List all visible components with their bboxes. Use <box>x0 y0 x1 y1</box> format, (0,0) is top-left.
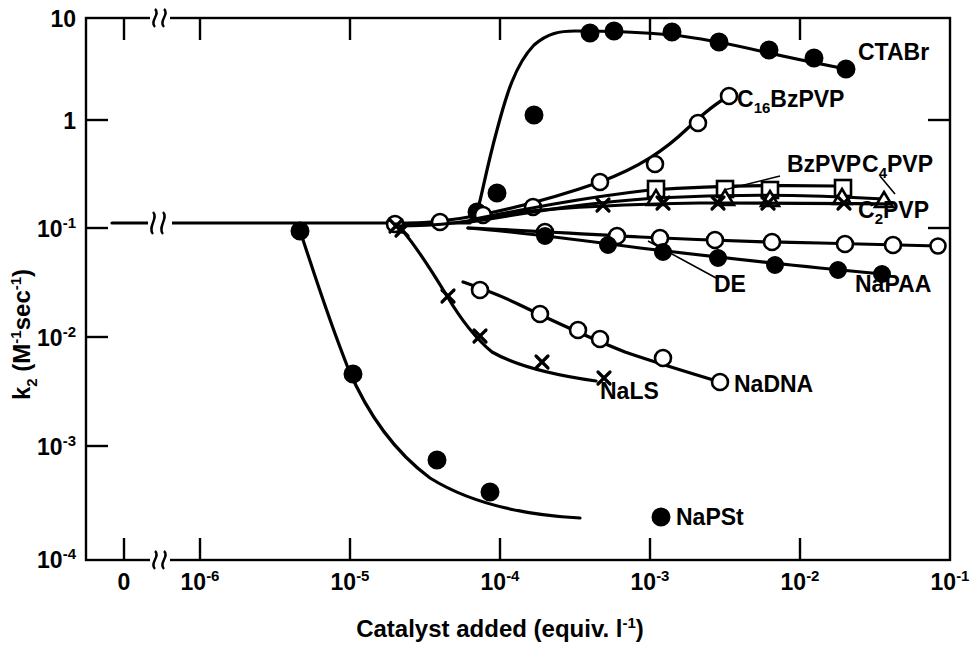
label-napst: NaPSt <box>676 504 744 530</box>
data-point <box>472 282 488 298</box>
data-point <box>429 452 446 469</box>
data-point <box>806 50 823 67</box>
data-point <box>570 322 586 338</box>
data-point <box>655 350 671 366</box>
data-point <box>838 61 855 78</box>
label-nals: NaLS <box>600 378 659 404</box>
data-point <box>664 24 681 41</box>
data-point <box>721 88 737 104</box>
ytick-label-1e-1: 10-1 <box>37 214 76 242</box>
xtick-label-0: 0 <box>118 569 131 595</box>
xtick-label-1e-6: 10-6 <box>181 567 220 595</box>
data-point <box>710 250 726 266</box>
data-point <box>931 239 946 254</box>
data-point <box>592 331 608 347</box>
label-de: DE <box>714 271 746 297</box>
series-c2pvp <box>390 197 890 232</box>
label-c2pvp: C2PVP <box>858 197 929 227</box>
data-point <box>489 185 506 202</box>
data-point <box>707 232 723 248</box>
data-point <box>653 509 670 526</box>
data-point <box>592 174 608 190</box>
data-point <box>764 234 780 250</box>
leader-de <box>648 241 718 279</box>
data-point <box>767 257 783 273</box>
ytick-label-1e-4: 10-4 <box>37 545 77 573</box>
series-nals <box>396 224 610 384</box>
ytick-label-1e-2: 10-2 <box>37 323 76 351</box>
x-axis-ticks <box>124 538 800 560</box>
data-point <box>345 366 362 383</box>
data-point <box>885 237 901 253</box>
y-axis-ticks <box>86 120 108 446</box>
xtick-label-1e-1: 10-1 <box>931 567 970 595</box>
label-bzpvp: BzPVP <box>787 151 861 177</box>
xtick-label-1e-3: 10-3 <box>631 567 670 595</box>
ytick-label-10: 10 <box>50 6 76 32</box>
xtick-label-1e-4: 10-4 <box>481 567 521 595</box>
data-point <box>647 156 663 172</box>
data-point <box>537 228 553 244</box>
ytick-label-1e-3: 10-3 <box>37 432 76 460</box>
x-axis-title: Catalyst added (equiv. l-1) <box>356 614 644 642</box>
data-point <box>600 237 616 253</box>
y-axis-title: k2 (M-1sec-1) <box>7 269 40 400</box>
series-nadna <box>463 282 728 390</box>
x-axis-ticks-top <box>124 18 800 40</box>
data-point <box>712 374 728 390</box>
label-c16bzpvp: C16BzPVP <box>737 86 844 116</box>
x-axis-break-bottom <box>150 551 170 569</box>
data-point <box>536 356 548 368</box>
series-c16bzpvp <box>387 88 737 232</box>
data-point <box>606 23 623 40</box>
data-point <box>830 262 846 278</box>
svg-text:C2PVP: C2PVP <box>858 197 929 227</box>
data-point <box>837 236 853 252</box>
data-point <box>711 34 728 51</box>
label-napaa: NaPAA <box>855 271 931 297</box>
data-point <box>761 42 778 59</box>
data-point <box>532 306 548 322</box>
xtick-label-1e-2: 10-2 <box>781 567 820 595</box>
data-point <box>482 484 499 501</box>
x-axis-break-top <box>150 9 170 27</box>
ytick-label-1: 1 <box>63 108 76 134</box>
series-napst <box>292 223 670 526</box>
data-point <box>432 214 448 230</box>
scientific-plot: CTABr C16BzPVP BzPVP C4PVP C2PVP DE NaPA… <box>0 0 980 652</box>
label-c4pvp: C4PVP <box>862 151 933 181</box>
label-ctabr: CTABr <box>858 39 929 65</box>
xtick-label-1e-5: 10-5 <box>331 567 370 595</box>
data-point <box>526 107 543 124</box>
data-point <box>582 25 599 42</box>
figure-root: CTABr C16BzPVP BzPVP C4PVP C2PVP DE NaPA… <box>0 0 980 652</box>
data-point <box>690 115 706 131</box>
label-nadna: NaDNA <box>734 371 813 397</box>
svg-text:C4PVP: C4PVP <box>862 151 933 181</box>
data-point <box>292 223 309 240</box>
series-napaa <box>468 228 890 282</box>
svg-text:C16BzPVP: C16BzPVP <box>737 86 844 116</box>
